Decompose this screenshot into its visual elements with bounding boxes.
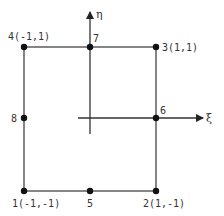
eta-axis-label: η	[96, 8, 103, 21]
node-3-label: 3(1,1)	[162, 42, 198, 53]
node-5	[87, 188, 93, 194]
node-1	[21, 188, 27, 194]
xi-axis-label: ξ	[206, 112, 212, 125]
node-4	[21, 44, 27, 50]
node-7-label: 7	[93, 33, 99, 44]
node-4-label: 4(-1,1)	[8, 31, 50, 42]
node-5-label: 5	[87, 198, 93, 209]
element-diagram: η ξ 1(-1,-1) 2(1,-1) 3(1,1) 4(-1,1) 5 6 …	[0, 0, 224, 216]
node-1-label: 1(-1,-1)	[12, 198, 60, 209]
node-6-label: 6	[160, 105, 166, 116]
node-8	[21, 115, 27, 121]
node-2	[153, 188, 159, 194]
node-7	[87, 44, 93, 50]
node-2-label: 2(1,-1)	[143, 198, 185, 209]
node-8-label: 8	[11, 113, 17, 124]
node-3	[153, 44, 159, 50]
node-6	[153, 115, 159, 121]
